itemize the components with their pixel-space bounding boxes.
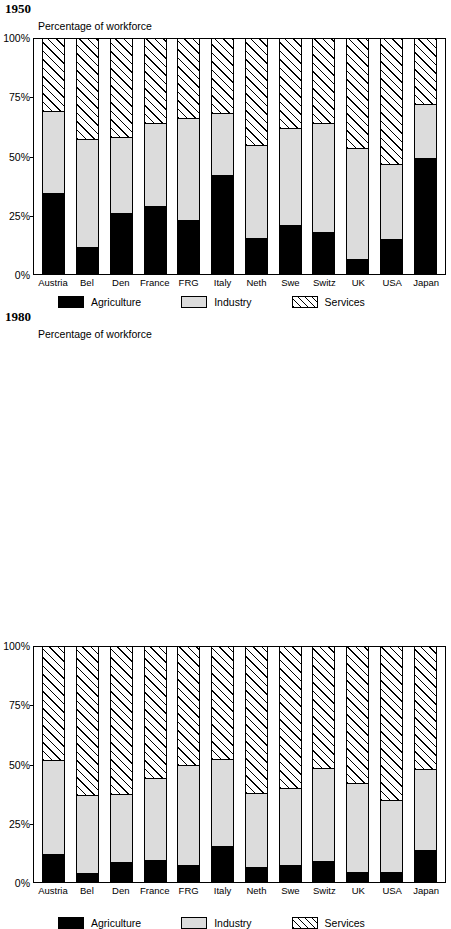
stacked-bar[interactable] <box>144 39 167 274</box>
y-axis-tick-label: 25% <box>2 819 30 829</box>
stacked-bar[interactable] <box>76 647 99 882</box>
bar-segment-industry <box>178 119 199 221</box>
x-axis-category-label: Japan <box>409 885 443 897</box>
bar-segment-industry <box>381 801 402 873</box>
bar-slot <box>240 39 274 274</box>
x-axis-category-label: Italy <box>206 277 240 289</box>
bar-slot <box>105 39 139 274</box>
bar-segment-industry <box>77 796 98 874</box>
y-axis-tick-label: 0% <box>2 878 30 888</box>
bar-segment-industry <box>347 149 368 259</box>
bar-segment-industry <box>43 761 64 855</box>
bar-segment-services <box>212 39 233 114</box>
x-axis-category-label: FRG <box>172 277 206 289</box>
bar-slot <box>307 647 341 882</box>
bar-segment-agriculture <box>381 873 402 882</box>
stacked-bar[interactable] <box>380 647 403 882</box>
bar-slot <box>37 647 71 882</box>
bar-segment-industry <box>212 760 233 847</box>
stacked-bar[interactable] <box>346 39 369 274</box>
bar-segment-agriculture <box>313 862 334 882</box>
panel-year-label-1980: 1980 <box>5 310 31 324</box>
stacked-bar[interactable] <box>42 39 65 274</box>
stacked-bar[interactable] <box>245 39 268 274</box>
bar-segment-agriculture <box>381 240 402 274</box>
stacked-bar[interactable] <box>42 647 65 882</box>
bar-segment-services <box>178 39 199 119</box>
stacked-bar[interactable] <box>211 39 234 274</box>
bar-slot <box>138 39 172 274</box>
y-axis-1950: 100%75%50%25%0% <box>0 38 30 275</box>
bar-segment-agriculture <box>145 861 166 882</box>
bar-segment-industry <box>178 766 199 866</box>
bar-segment-agriculture <box>178 866 199 882</box>
stacked-bar[interactable] <box>312 39 335 274</box>
bar-slot <box>375 647 409 882</box>
legend-item-services[interactable]: Services <box>292 917 365 929</box>
x-axis-category-label: Neth <box>240 885 274 897</box>
stacked-bar[interactable] <box>76 39 99 274</box>
stacked-bar[interactable] <box>279 647 302 882</box>
stacked-bar[interactable] <box>110 647 133 882</box>
x-axis-category-label: USA <box>375 885 409 897</box>
bar-segment-agriculture <box>212 847 233 882</box>
bar-segment-agriculture <box>347 873 368 882</box>
bar-segment-agriculture <box>415 851 436 882</box>
y-axis-tick-label: 50% <box>2 152 30 162</box>
stacked-bar[interactable] <box>211 647 234 882</box>
x-axis-category-label: Bel <box>70 885 104 897</box>
stacked-bar[interactable] <box>279 39 302 274</box>
bar-segment-industry <box>415 770 436 851</box>
x-axis-category-label: Austria <box>36 277 70 289</box>
bar-segment-agriculture <box>145 207 166 274</box>
bar-slot <box>408 39 442 274</box>
bar-segment-industry <box>246 146 267 239</box>
stacked-bar[interactable] <box>110 39 133 274</box>
stacked-bar[interactable] <box>177 647 200 882</box>
bar-slot <box>71 647 105 882</box>
stacked-bar[interactable] <box>312 647 335 882</box>
bar-segment-agriculture <box>111 863 132 882</box>
bar-segment-agriculture <box>43 855 64 882</box>
chart-panel-1980: 1980 Percentage of workforce 100%75%50%2… <box>0 305 451 646</box>
bar-segment-services <box>415 647 436 770</box>
stacked-bar[interactable] <box>414 647 437 882</box>
x-axis-category-label: Japan <box>409 277 443 289</box>
bar-segment-services <box>111 647 132 795</box>
bar-segment-agriculture <box>246 868 267 882</box>
bar-slot <box>172 39 206 274</box>
bar-segment-agriculture <box>212 176 233 274</box>
stacked-bar[interactable] <box>380 39 403 274</box>
bar-segment-industry <box>280 129 301 225</box>
bar-segment-agriculture <box>280 866 301 882</box>
stacked-bar[interactable] <box>177 39 200 274</box>
x-axis-category-label: UK <box>341 277 375 289</box>
plot-area-1950 <box>33 38 446 275</box>
stacked-bar[interactable] <box>245 647 268 882</box>
bar-segment-services <box>313 39 334 124</box>
bar-slot <box>408 647 442 882</box>
bar-segment-services <box>212 647 233 760</box>
stacked-bar[interactable] <box>346 647 369 882</box>
bar-segment-services <box>381 39 402 165</box>
legend-item-industry[interactable]: Industry <box>181 917 251 929</box>
bar-segment-services <box>77 39 98 140</box>
bar-group-1980 <box>34 647 445 882</box>
bar-segment-services <box>145 39 166 124</box>
bar-segment-services <box>381 647 402 801</box>
diagonal-hatch-swatch <box>292 917 318 929</box>
bar-segment-industry <box>43 112 64 194</box>
x-axis-category-label: Switz <box>307 277 341 289</box>
bar-segment-agriculture <box>246 239 267 274</box>
x-axis-category-label: Swe <box>273 885 307 897</box>
bar-segment-services <box>43 647 64 761</box>
legend-label-agriculture: Agriculture <box>91 917 141 929</box>
legend-item-agriculture[interactable]: Agriculture <box>58 917 141 929</box>
bar-segment-industry <box>77 140 98 248</box>
x-axis-category-label: Den <box>104 885 138 897</box>
y-axis-tick-label: 100% <box>2 33 30 43</box>
bar-segment-industry <box>212 114 233 176</box>
stacked-bar[interactable] <box>414 39 437 274</box>
stacked-bar[interactable] <box>144 647 167 882</box>
x-axis-category-label: UK <box>341 885 375 897</box>
